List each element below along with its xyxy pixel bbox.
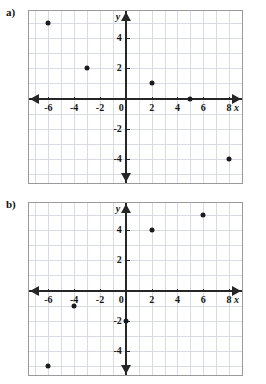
x-axis-tick bbox=[152, 289, 153, 292]
x-axis bbox=[29, 98, 242, 100]
x-axis-tick bbox=[100, 97, 101, 100]
data-point bbox=[46, 21, 51, 26]
data-point bbox=[227, 156, 232, 161]
y-axis-arrow-up bbox=[121, 12, 131, 21]
y-axis-tick-label: -4 bbox=[108, 154, 122, 164]
x-axis-tick bbox=[229, 97, 230, 100]
chart-panel-a: a) -6-4-20246842-2-4xy bbox=[0, 0, 266, 192]
y-axis-tick bbox=[127, 230, 130, 231]
y-axis bbox=[125, 203, 127, 375]
data-point bbox=[188, 96, 193, 101]
x-axis-arrow-left bbox=[30, 94, 39, 104]
x-axis-tick bbox=[100, 289, 101, 292]
y-axis-tick-label: 2 bbox=[108, 63, 122, 73]
x-axis-tick-label: 2 bbox=[149, 295, 154, 305]
gridline-horizontal bbox=[29, 245, 242, 246]
y-axis-tick bbox=[127, 159, 130, 160]
gridline-horizontal bbox=[29, 53, 242, 54]
x-axis-tick bbox=[203, 289, 204, 292]
gridline-horizontal bbox=[29, 366, 242, 367]
x-axis-tick-label: 8 bbox=[227, 295, 232, 305]
gridline-horizontal bbox=[29, 321, 242, 322]
x-axis-tick-label: 6 bbox=[201, 295, 206, 305]
gridline-horizontal bbox=[29, 351, 242, 352]
y-axis-tick bbox=[127, 38, 130, 39]
gridline-vertical bbox=[242, 203, 243, 375]
gridline-horizontal bbox=[29, 275, 242, 276]
panel-label-a: a) bbox=[6, 6, 15, 18]
y-axis-label: y bbox=[116, 12, 120, 22]
x-axis-tick bbox=[177, 97, 178, 100]
gridline-horizontal bbox=[29, 38, 242, 39]
y-axis-arrow-down bbox=[121, 365, 131, 374]
y-axis-tick-label: 4 bbox=[108, 225, 122, 235]
data-point bbox=[149, 81, 154, 86]
x-axis-tick-label: -2 bbox=[96, 103, 104, 113]
y-axis-tick-label: -4 bbox=[108, 346, 122, 356]
x-axis-tick-label: -2 bbox=[96, 295, 104, 305]
x-axis-tick-label: 8 bbox=[227, 103, 232, 113]
x-axis-tick-label: -6 bbox=[44, 295, 52, 305]
x-axis-tick bbox=[74, 97, 75, 100]
gridline-horizontal bbox=[29, 230, 242, 231]
x-axis-tick-label: 0 bbox=[119, 295, 124, 305]
x-axis-tick-label: 6 bbox=[201, 103, 206, 113]
y-axis-arrow-up bbox=[121, 204, 131, 213]
x-axis-tick bbox=[74, 289, 75, 292]
data-point bbox=[123, 318, 128, 323]
y-axis-arrow-down bbox=[121, 173, 131, 182]
gridline-horizontal bbox=[29, 336, 242, 337]
plot-area-a: -6-4-20246842-2-4xy bbox=[28, 10, 243, 184]
x-axis-tick-label: 4 bbox=[175, 103, 180, 113]
y-axis-tick-label: -2 bbox=[108, 124, 122, 134]
y-axis-tick-label: 2 bbox=[108, 255, 122, 265]
y-axis-label: y bbox=[116, 204, 120, 214]
data-point bbox=[201, 213, 206, 218]
x-axis-tick-label: 4 bbox=[175, 295, 180, 305]
chart-panel-b: b) -6-4-202468642-2-4xy bbox=[0, 192, 266, 384]
gridline-horizontal bbox=[29, 260, 242, 261]
x-axis-tick bbox=[48, 97, 49, 100]
gridline-horizontal bbox=[29, 306, 242, 307]
y-axis-tick bbox=[127, 351, 130, 352]
y-axis-tick-label: -2 bbox=[108, 316, 122, 326]
x-axis-tick-label: 2 bbox=[149, 103, 154, 113]
x-axis-arrow-left bbox=[30, 286, 39, 296]
data-point bbox=[72, 303, 77, 308]
gridline-horizontal bbox=[29, 174, 242, 175]
x-axis-tick-label: -4 bbox=[70, 103, 78, 113]
panel-label-b: b) bbox=[6, 198, 16, 210]
y-axis bbox=[125, 11, 127, 183]
x-axis-tick bbox=[229, 289, 230, 292]
data-point bbox=[85, 66, 90, 71]
x-axis-tick bbox=[152, 97, 153, 100]
x-axis bbox=[29, 290, 242, 292]
data-point bbox=[149, 228, 154, 233]
y-axis-tick bbox=[127, 68, 130, 69]
data-point bbox=[46, 363, 51, 368]
gridline-horizontal bbox=[29, 114, 242, 115]
y-axis-tick bbox=[127, 129, 130, 130]
x-axis-label: x bbox=[234, 295, 239, 305]
gridline-horizontal bbox=[29, 23, 242, 24]
plot-area-b: -6-4-202468642-2-4xy bbox=[28, 202, 243, 376]
x-axis-tick bbox=[203, 97, 204, 100]
gridline-horizontal bbox=[29, 144, 242, 145]
gridline-horizontal bbox=[29, 83, 242, 84]
gridline-horizontal bbox=[29, 129, 242, 130]
gridline-horizontal bbox=[29, 215, 242, 216]
y-axis-tick bbox=[127, 260, 130, 261]
gridline-horizontal bbox=[29, 159, 242, 160]
x-axis-tick bbox=[48, 289, 49, 292]
x-axis-tick-label: -6 bbox=[44, 103, 52, 113]
x-axis-tick bbox=[177, 289, 178, 292]
x-axis-label: x bbox=[234, 103, 239, 113]
gridline-vertical bbox=[242, 11, 243, 183]
y-axis-tick-label: 4 bbox=[108, 33, 122, 43]
x-axis-tick-label: 0 bbox=[119, 103, 124, 113]
gridline-horizontal bbox=[29, 68, 242, 69]
